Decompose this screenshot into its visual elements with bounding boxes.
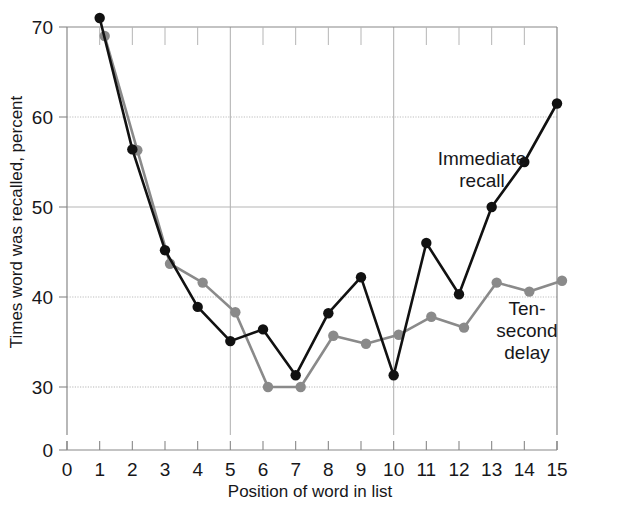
y-tick-label-0: 0	[42, 440, 53, 461]
x-tick-label-14: 14	[514, 459, 536, 480]
x-axis-title: Position of word in list	[228, 482, 393, 501]
x-tick-label-4: 4	[192, 459, 203, 480]
ten-second-delay-label-line1: Ten-	[509, 298, 546, 319]
ten-second-delay-label-line2: second	[496, 320, 557, 341]
x-tick-label-3: 3	[160, 459, 171, 480]
data-point	[230, 307, 240, 317]
data-point	[459, 322, 469, 332]
data-point	[557, 276, 567, 286]
data-point	[225, 336, 235, 346]
data-point	[361, 339, 371, 349]
y-tick-label-70: 70	[32, 17, 53, 38]
data-point	[328, 331, 338, 341]
x-tick-label-15: 15	[546, 459, 567, 480]
x-tick-label-10: 10	[383, 459, 404, 480]
data-point	[197, 277, 207, 287]
data-point	[524, 286, 534, 296]
x-tick-label-1: 1	[94, 459, 105, 480]
data-point	[454, 289, 464, 299]
data-point	[127, 144, 137, 154]
x-tick-label-12: 12	[448, 459, 469, 480]
data-point	[552, 98, 562, 108]
data-point	[491, 277, 501, 287]
ten-second-delay-label-line3: delay	[504, 342, 550, 363]
x-tick-label-8: 8	[323, 459, 334, 480]
y-tick-label-60: 60	[32, 107, 53, 128]
data-point	[323, 308, 333, 318]
x-tick-label-0: 0	[62, 459, 73, 480]
data-point	[192, 302, 202, 312]
y-tick-label-50: 50	[32, 197, 53, 218]
y-tick-label-40: 40	[32, 287, 53, 308]
data-point	[290, 370, 300, 380]
data-point	[258, 324, 268, 334]
chart-canvas: 0123456789101112131415 30405060700 Posit…	[0, 0, 620, 522]
x-tick-label-13: 13	[481, 459, 502, 480]
line-chart: 0123456789101112131415 30405060700 Posit…	[0, 0, 620, 522]
x-tick-label-5: 5	[225, 459, 236, 480]
x-tick-label-2: 2	[127, 459, 138, 480]
data-point	[295, 382, 305, 392]
data-point	[160, 245, 170, 255]
data-point	[421, 238, 431, 248]
immediate-recall-label-line1: Immediate	[438, 148, 527, 169]
y-tick-label-30: 30	[32, 377, 53, 398]
x-tick-label-9: 9	[356, 459, 367, 480]
data-point	[486, 202, 496, 212]
data-point	[426, 312, 436, 322]
immediate-recall-label-line2: recall	[459, 170, 504, 191]
data-point	[263, 382, 273, 392]
data-point	[94, 13, 104, 23]
x-tick-label-11: 11	[416, 459, 436, 480]
x-tick-label-6: 6	[258, 459, 269, 480]
data-point	[388, 370, 398, 380]
x-tick-label-7: 7	[290, 459, 301, 480]
chart-background	[0, 0, 620, 522]
data-point	[356, 272, 366, 282]
y-axis-title: Times word was recalled, percent	[7, 95, 26, 348]
